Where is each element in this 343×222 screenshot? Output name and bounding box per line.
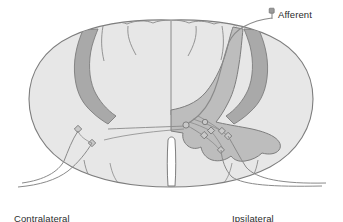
ventral-median-fissure	[167, 137, 176, 186]
label-ipsilateral-extensor-reflex: Ipsilateral extensor reflex	[232, 190, 296, 222]
label-ipsilateral-line1: Ipsilateral	[232, 213, 296, 222]
neuron-soma-1	[183, 122, 189, 128]
label-contralateral-flexor-reflex: Contralateral flexor reflex	[14, 190, 70, 222]
spinal-cord-cross-section	[0, 0, 343, 222]
figure-canvas: Afferent Contralateral flexor reflex Ips…	[0, 0, 343, 222]
label-contralateral-line1: Contralateral	[14, 213, 70, 222]
label-afferent: Afferent	[278, 9, 312, 21]
neuron-soma-2	[202, 119, 207, 124]
fissure-shape	[167, 137, 176, 186]
afferent-receptor-icon	[269, 8, 274, 13]
